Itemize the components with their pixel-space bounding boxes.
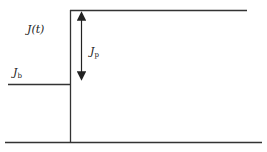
pulse-amplitude-label: Jp [90,46,99,59]
base-level-label: Jb [13,67,22,80]
pulse-label-sub: p [94,51,98,59]
base-level-label-sub: b [17,72,21,80]
function-label: J(t) [27,24,44,35]
